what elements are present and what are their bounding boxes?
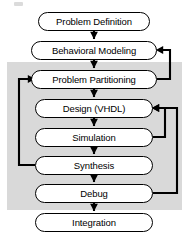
figure-caption	[6, 239, 184, 247]
feedback-synthesis-to-partitioning	[19, 79, 35, 165]
feedback-partitioning-to-modeling	[157, 50, 170, 79]
connector-layer	[0, 0, 189, 247]
node-simulation[interactable]: Simulation	[35, 128, 153, 147]
node-label: Problem Partitioning	[52, 75, 136, 85]
node-synthesis[interactable]: Synthesis	[35, 156, 153, 175]
node-label: Synthesis	[74, 161, 114, 171]
node-design-vhdl[interactable]: Design (VHDL)	[35, 99, 153, 118]
node-behavioral-modeling[interactable]: Behavioral Modeling	[31, 41, 157, 60]
node-label: Problem Definition	[56, 17, 132, 27]
node-label: Debug	[80, 189, 108, 199]
flowchart-figure: Problem Definition Behavioral Modeling P…	[0, 0, 189, 247]
node-label: Simulation	[72, 133, 115, 143]
node-problem-partitioning[interactable]: Problem Partitioning	[31, 70, 157, 89]
node-label: Behavioral Modeling	[52, 46, 136, 56]
node-debug[interactable]: Debug	[35, 184, 153, 203]
feedback-simulation-to-design	[153, 108, 165, 137]
node-label: Design (VHDL)	[63, 104, 126, 114]
node-label: Integration	[72, 218, 116, 228]
node-integration[interactable]: Integration	[35, 213, 153, 232]
node-problem-definition[interactable]: Problem Definition	[38, 12, 150, 31]
